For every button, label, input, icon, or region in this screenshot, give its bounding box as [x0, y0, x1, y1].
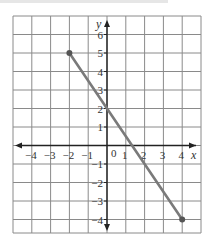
y-tick-label: −1 [91, 158, 103, 170]
y-axis-arrow-up-icon [104, 20, 110, 27]
x-tick-label: −2 [63, 149, 75, 161]
x-tick-label: 1 [122, 149, 128, 161]
x-tick-label: 4 [178, 149, 184, 161]
x-axis-label: x [190, 148, 197, 162]
origin-label: 0 [111, 147, 117, 159]
y-axis-arrow-down-icon [104, 224, 110, 231]
y-tick-label: −3 [91, 195, 103, 207]
y-tick-label: 5 [98, 47, 104, 59]
x-axis-arrow-left-icon [15, 143, 22, 149]
x-tick-label: −3 [44, 149, 56, 161]
x-tick-label: 3 [160, 149, 166, 161]
y-axis-label: y [95, 17, 102, 31]
x-tick-label: −4 [25, 149, 37, 161]
y-tick-label: −2 [91, 177, 103, 189]
y-tick-label: −4 [91, 214, 103, 226]
y-tick-label: 1 [98, 121, 104, 133]
y-tick-label: 2 [98, 103, 104, 115]
y-tick-label: 4 [98, 66, 104, 78]
endpoint-dot [179, 217, 185, 223]
endpoint-dot [66, 50, 72, 56]
coordinate-plane: −4−3−2−11234654321−1−2−3−4 x y 0 [0, 0, 211, 245]
